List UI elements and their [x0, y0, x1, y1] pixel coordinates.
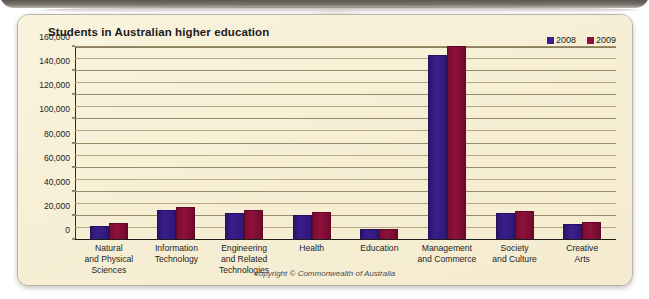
legend-item-2008: 2008 [547, 35, 576, 45]
plot-area: 020,00040,00060,00080,000100,000120,0001… [75, 47, 616, 240]
y-tick-label: 80,000 [44, 129, 70, 139]
bar-group[interactable] [225, 47, 263, 240]
chart-panel: Students in Australian higher education … [17, 14, 633, 286]
legend-item-2009: 2009 [587, 35, 616, 45]
bar-2009[interactable] [582, 222, 601, 240]
bar-2009[interactable] [515, 211, 534, 240]
bar-2008[interactable] [157, 210, 176, 240]
legend-label-2008: 2008 [556, 35, 576, 45]
x-axis-baseline [75, 239, 616, 240]
bar-2008[interactable] [293, 215, 312, 240]
bar-2009[interactable] [109, 223, 128, 240]
bar-2009[interactable] [176, 207, 195, 240]
bar-group[interactable] [157, 47, 195, 240]
bar-group[interactable] [90, 47, 128, 240]
legend-swatch-2008 [547, 37, 554, 44]
bar-2008[interactable] [496, 213, 515, 240]
scan-edge-artifact [0, 0, 649, 8]
y-tick-label: 120,000 [39, 80, 70, 90]
bar-2008[interactable] [225, 213, 244, 240]
bar-group[interactable] [428, 47, 466, 240]
bar-group[interactable] [360, 47, 398, 240]
y-tick-label: 160,000 [39, 32, 70, 42]
bar-group[interactable] [496, 47, 534, 240]
bar-series-container [75, 47, 616, 240]
bar-2009[interactable] [244, 210, 263, 240]
y-tick-label: 40,000 [44, 177, 70, 187]
copyright-notice: copyright © Commonwealth of Australia [18, 269, 632, 278]
chart-legend: 2008 2009 [547, 35, 616, 45]
y-tick-label: 100,000 [39, 104, 70, 114]
y-tick-label: 20,000 [44, 201, 70, 211]
y-tick-label: 60,000 [44, 153, 70, 163]
chart-title: Students in Australian higher education [48, 26, 269, 38]
bar-2008[interactable] [428, 55, 447, 240]
bar-2009[interactable] [447, 46, 466, 240]
bar-2009[interactable] [312, 212, 331, 240]
bar-group[interactable] [293, 47, 331, 240]
bar-group[interactable] [563, 47, 601, 240]
legend-swatch-2009 [587, 37, 594, 44]
y-tick-label: 140,000 [39, 56, 70, 66]
y-tick-label: 0 [65, 225, 70, 235]
legend-label-2009: 2009 [596, 35, 616, 45]
